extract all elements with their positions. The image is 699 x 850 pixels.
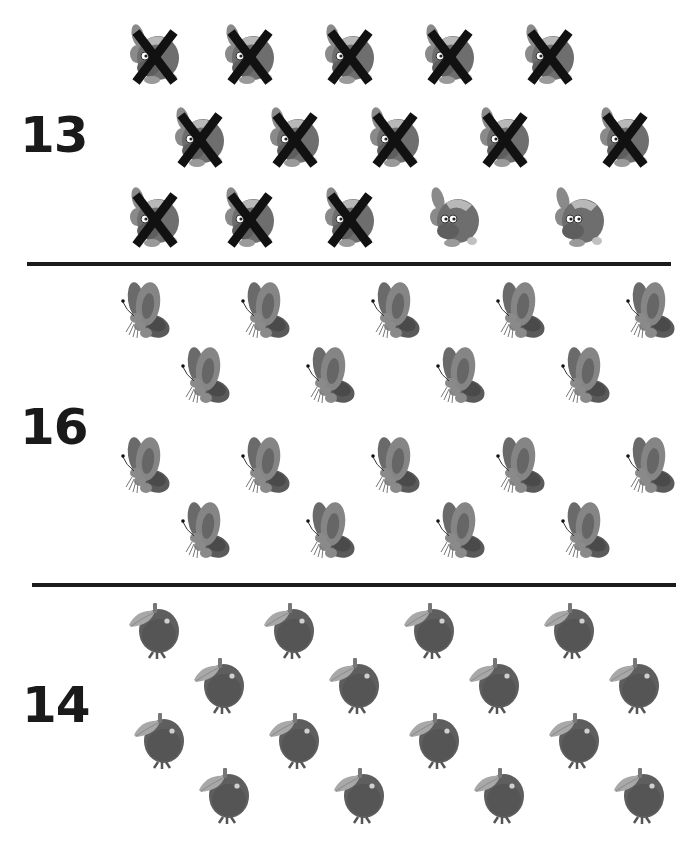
butterfly-item [491,278,549,342]
apple-icon [325,654,385,716]
fish-item [323,185,377,251]
butterfly-icon [116,433,174,497]
count-label-fish: 13 [20,110,88,160]
apple-icon [190,654,250,716]
apple-item [605,654,665,716]
butterfly-icon [176,498,234,562]
fish-item [523,22,577,88]
butterfly-icon [431,343,489,407]
apple-icon [265,709,325,771]
apple-icon [405,709,465,771]
butterfly-item [556,343,614,407]
apple-item [130,709,190,771]
butterfly-icon [556,343,614,407]
butterfly-icon [116,278,174,342]
fish-item [368,105,422,171]
apple-item [545,709,605,771]
apple-item [540,599,600,661]
fish-item [128,185,182,251]
apple-icon [130,709,190,771]
fish-item [268,105,322,171]
fish-item [223,185,277,251]
butterfly-icon [491,433,549,497]
butterfly-item [621,433,679,497]
butterfly-icon [556,498,614,562]
apple-item [610,764,670,826]
apple-item [190,654,250,716]
butterfly-item [301,343,359,407]
apple-item [470,764,530,826]
butterfly-icon [176,343,234,407]
fish-item [223,22,277,88]
butterfly-icon [366,433,424,497]
butterfly-item [366,278,424,342]
apple-icon [610,764,670,826]
butterfly-icon [621,433,679,497]
fish-item [478,105,532,171]
apple-icon [330,764,390,826]
butterfly-item [431,343,489,407]
apple-item [405,709,465,771]
fish-item [423,22,477,88]
divider-2 [32,583,676,587]
butterfly-icon [366,278,424,342]
apple-icon [540,599,600,661]
butterfly-item [431,498,489,562]
butterfly-icon [491,278,549,342]
divider-1 [27,262,671,266]
apple-icon [605,654,665,716]
fish-item [598,105,652,171]
apple-icon [260,599,320,661]
fish-icon [428,185,482,251]
apple-item [125,599,185,661]
apple-icon [470,764,530,826]
fish-item [173,105,227,171]
butterfly-item [176,343,234,407]
apple-icon [125,599,185,661]
butterfly-item [236,278,294,342]
apple-item [265,709,325,771]
fish-item [553,185,607,251]
butterfly-icon [301,343,359,407]
apple-icon [545,709,605,771]
butterfly-icon [431,498,489,562]
apple-icon [465,654,525,716]
butterfly-icon [621,278,679,342]
apple-item [330,764,390,826]
fish-icon [553,185,607,251]
butterfly-item [556,498,614,562]
fish-item [428,185,482,251]
butterfly-icon [236,433,294,497]
butterfly-item [176,498,234,562]
butterfly-item [621,278,679,342]
apple-icon [195,764,255,826]
butterfly-item [116,278,174,342]
butterfly-item [301,498,359,562]
count-label-butterfly: 16 [20,402,88,452]
apple-item [325,654,385,716]
apple-item [400,599,460,661]
fish-item [128,22,182,88]
apple-item [195,764,255,826]
count-label-apple: 14 [22,680,90,730]
fish-item [323,22,377,88]
butterfly-item [236,433,294,497]
apple-icon [400,599,460,661]
butterfly-icon [301,498,359,562]
butterfly-item [366,433,424,497]
butterfly-item [116,433,174,497]
butterfly-item [491,433,549,497]
apple-item [260,599,320,661]
apple-item [465,654,525,716]
butterfly-icon [236,278,294,342]
